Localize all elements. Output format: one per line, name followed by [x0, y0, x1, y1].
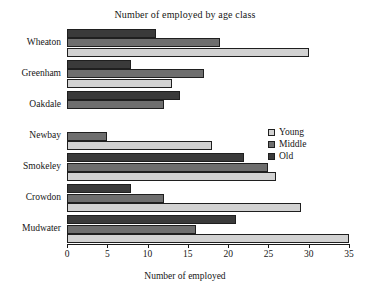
x-tick-label-35: 35 [344, 249, 354, 259]
bar-smokeley-old[interactable] [67, 153, 244, 162]
y-axis-label-greenham: Greenham [21, 68, 61, 78]
bar-group [67, 91, 349, 119]
bar-chart: Number of employed by age class WheatonG… [0, 0, 370, 292]
x-tick-label-10: 10 [143, 249, 153, 259]
legend-label: Young [279, 127, 304, 138]
x-tick-label-0: 0 [65, 249, 70, 259]
x-tick-label-20: 20 [223, 249, 233, 259]
legend-item-middle[interactable]: Middle [268, 139, 306, 150]
x-tick-mark [107, 244, 108, 248]
chart-title: Number of employed by age class [0, 9, 370, 20]
y-axis-label-smokeley: Smokeley [23, 161, 61, 171]
x-tick-mark [188, 244, 189, 248]
x-tick-label-5: 5 [105, 249, 110, 259]
chart-legend: YoungMiddleOld [268, 127, 306, 163]
x-tick-label-30: 30 [304, 249, 314, 259]
bar-greenham-old[interactable] [67, 60, 131, 69]
x-tick-label-15: 15 [183, 249, 193, 259]
bar-smokeley-middle[interactable] [67, 163, 268, 172]
bar-smokeley-young[interactable] [67, 172, 276, 181]
legend-swatch-icon [268, 129, 275, 136]
y-axis-category-labels: WheatonGreenhamOakdaleNewbaySmokeleyCrow… [0, 26, 67, 244]
bar-group [67, 184, 349, 212]
bar-mudwater-young[interactable] [67, 234, 349, 243]
x-axis-title: Number of employed [0, 271, 370, 281]
y-axis-label-oakdale: Oakdale [29, 99, 61, 109]
legend-label: Middle [279, 139, 306, 150]
bar-crowdon-young[interactable] [67, 203, 301, 212]
bar-newbay-young[interactable] [67, 141, 212, 150]
bar-greenham-young[interactable] [67, 79, 172, 88]
x-axis-ticks: 05101520253035 [67, 244, 349, 270]
legend-label: Old [279, 151, 293, 162]
bar-oakdale-middle[interactable] [67, 100, 164, 109]
x-tick-mark [148, 244, 149, 248]
bar-greenham-middle[interactable] [67, 69, 204, 78]
bar-crowdon-old[interactable] [67, 184, 131, 193]
bar-crowdon-middle[interactable] [67, 194, 164, 203]
bar-wheaton-old[interactable] [67, 29, 156, 38]
y-axis-label-mudwater: Mudwater [22, 223, 61, 233]
y-axis-label-wheaton: Wheaton [27, 37, 61, 47]
legend-item-old[interactable]: Old [268, 151, 306, 162]
plot-area [67, 26, 349, 244]
x-tick-label-25: 25 [264, 249, 274, 259]
bar-wheaton-young[interactable] [67, 48, 309, 57]
x-tick-mark [67, 244, 68, 248]
bar-mudwater-middle[interactable] [67, 225, 196, 234]
y-axis-label-crowdon: Crowdon [26, 192, 61, 202]
x-tick-mark [228, 244, 229, 248]
bar-group [67, 215, 349, 243]
bar-oakdale-old[interactable] [67, 91, 180, 100]
y-axis-label-newbay: Newbay [29, 130, 61, 140]
bar-group [67, 122, 349, 150]
bar-newbay-middle[interactable] [67, 132, 107, 141]
legend-swatch-icon [268, 153, 275, 160]
bar-group [67, 60, 349, 88]
x-tick-mark [349, 244, 350, 248]
legend-swatch-icon [268, 141, 275, 148]
x-tick-mark [309, 244, 310, 248]
legend-item-young[interactable]: Young [268, 127, 306, 138]
bar-wheaton-middle[interactable] [67, 38, 220, 47]
bar-group [67, 153, 349, 181]
bar-mudwater-old[interactable] [67, 215, 236, 224]
x-tick-mark [268, 244, 269, 248]
bar-group [67, 29, 349, 57]
